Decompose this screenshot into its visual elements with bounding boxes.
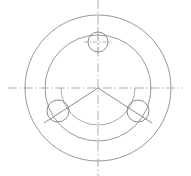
technical-drawing-canvas: [0, 0, 191, 176]
radial-line-lower-right: [98, 88, 152, 123]
radial-line-lower-left: [44, 88, 98, 123]
drawing-svg: [0, 0, 191, 176]
